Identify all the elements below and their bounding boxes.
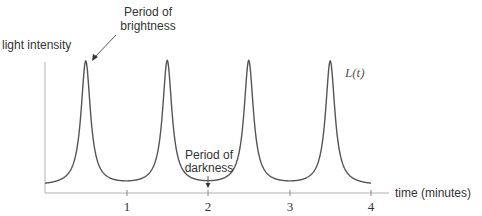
y-axis-label: light intensity: [2, 38, 71, 52]
brightness-arrow: [95, 35, 116, 57]
brightness-annotation-line2: brightness: [120, 19, 175, 33]
darkness-annotation-line1: Period of: [185, 148, 234, 162]
x-axis-label: time (minutes): [395, 186, 471, 200]
tick-label-3: 3: [287, 199, 294, 214]
tick-label-1: 1: [124, 199, 131, 214]
darkness-arrowhead-icon: [206, 183, 211, 188]
curve-label: L(t): [344, 65, 365, 80]
darkness-annotation-line2: darkness: [185, 161, 234, 175]
tick-label-2: 2: [205, 199, 212, 214]
tick-label-4: 4: [368, 199, 375, 214]
brightness-annotation-line1: Period of: [124, 5, 173, 19]
chart: 1 2 3 4 light intensity time (minutes) L…: [0, 0, 482, 216]
